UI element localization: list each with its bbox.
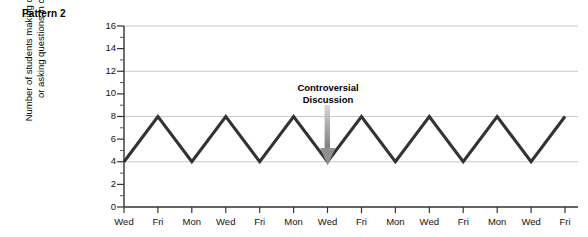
- y-tick-label-4: 4: [94, 155, 116, 166]
- chart-plot-area: [0, 0, 588, 237]
- x-tick-label-13: Fri: [545, 216, 585, 227]
- x-axis: [124, 207, 578, 213]
- y-axis-label-line2: or asking questions in class: [35, 0, 47, 130]
- y-axis-label-line1: Number of students making comments: [23, 0, 35, 130]
- y-axis: [117, 26, 124, 207]
- y-tick-label-0: 0: [94, 201, 116, 212]
- annotation-line1: Controversial: [268, 82, 388, 94]
- annotation-label: Controversial Discussion: [268, 82, 388, 106]
- y-tick-label-2: 2: [94, 178, 116, 189]
- chart-figure: Pattern 2 Number of students making comm…: [0, 0, 588, 237]
- y-tick-label-6: 6: [94, 133, 116, 144]
- y-axis-label: Number of students making comments or as…: [23, 0, 53, 130]
- annotation-line2: Discussion: [268, 94, 388, 106]
- y-tick-label-8: 8: [94, 110, 116, 121]
- data-series-line: [124, 117, 565, 162]
- y-tick-label-16: 16: [94, 20, 116, 31]
- y-tick-label-12: 12: [94, 65, 116, 76]
- y-tick-label-10: 10: [94, 87, 116, 98]
- y-tick-label-14: 14: [94, 42, 116, 53]
